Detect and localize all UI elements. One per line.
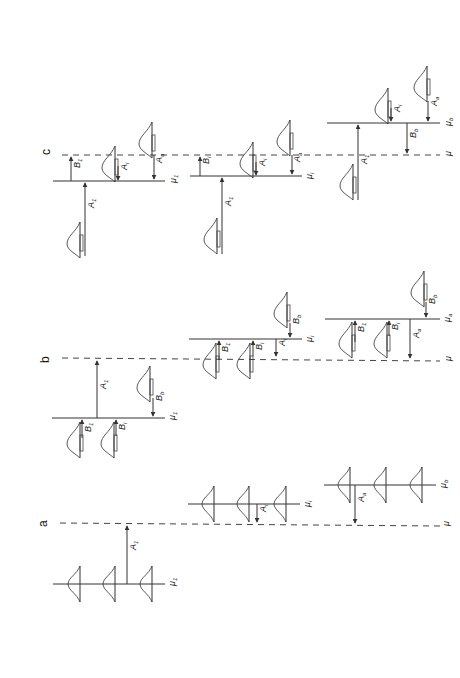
label-A1: A1	[359, 155, 370, 165]
distribution-curve	[375, 88, 391, 124]
label-Aa: Aa	[356, 492, 367, 503]
panel-c: c μ μ1 A1 B1 Ai Aa μi A1 Bi	[39, 66, 454, 258]
label-Aa: Aa	[292, 152, 303, 163]
group-c-1: μ1 A1 B1 Ai Aa	[53, 122, 179, 258]
group-a-i: μi Ai	[188, 486, 313, 522]
group-c-b: μb A1 Bb Ai Aa	[327, 66, 454, 200]
label-A1: A1	[86, 199, 97, 209]
label-Bi: Bi	[201, 156, 212, 164]
distribution-curve	[240, 142, 256, 178]
label-Bb: Bb	[408, 128, 419, 138]
group-b-i: μi B1 Bi Ai Bb	[189, 292, 315, 379]
distribution-curve	[102, 146, 118, 182]
label-B1: B1	[83, 423, 94, 432]
mu-dashed-line	[62, 358, 440, 361]
mu-1-label: μ1	[167, 578, 178, 587]
panel-a: a μ μ1 A1 μi Ai μb	[36, 467, 451, 602]
group-a-1: μ1 A1	[53, 526, 178, 602]
distribution-curve	[340, 164, 356, 200]
distribution-curve	[67, 222, 83, 258]
label-A1: A1	[128, 541, 139, 551]
group-b-b: μa B1 Bi Aa Bb	[325, 271, 453, 358]
panel-b: b μ μ1 A1 Bb B1 Bi μi B1	[38, 271, 453, 458]
distribution-curve	[67, 422, 83, 458]
distribution-curve	[374, 322, 390, 358]
mu-b-label: μb	[443, 117, 454, 127]
mu-i-label: μi	[304, 335, 315, 343]
distribution-curve	[101, 422, 117, 458]
mu-1-label: μ1	[168, 175, 179, 184]
label-Ai: Ai	[257, 158, 268, 167]
label-Ai: Ai	[258, 504, 269, 513]
distribution-curve	[204, 218, 220, 254]
diagram-canvas: c μ μ1 A1 B1 Ai Aa μi A1 Bi	[0, 0, 460, 678]
distribution-curve	[339, 322, 355, 358]
mu-i-label: μi	[304, 172, 315, 180]
distribution-curve	[411, 271, 427, 307]
label-Bi: Bi	[254, 342, 265, 350]
distribution-curve	[414, 66, 430, 102]
panel-label-a: a	[36, 520, 50, 527]
label-B1: B1	[72, 159, 83, 168]
distribution-curve	[274, 292, 290, 328]
group-a-b: μb Aa	[324, 467, 449, 523]
label-Ai: Ai	[392, 104, 403, 113]
label-A1: A1	[98, 380, 109, 390]
label-Aa: Aa	[429, 96, 440, 107]
distribution-curve	[237, 343, 253, 379]
label-B1: B1	[220, 343, 231, 352]
label-B1: B1	[356, 323, 367, 332]
group-b-1: μ1 A1 Bb B1 Bi	[52, 361, 178, 458]
label-Bi: Bi	[117, 422, 128, 430]
panel-label-c: c	[39, 149, 53, 155]
distribution-curve	[139, 122, 155, 158]
label-A1: A1	[223, 197, 234, 207]
label-Aa: Aa	[411, 328, 422, 339]
group-c-i: μi A1 Bi Ai Aa	[190, 120, 315, 254]
panel-label-b: b	[38, 356, 52, 363]
label-Bb: Bb	[427, 294, 438, 304]
label-Bb: Bb	[291, 314, 302, 324]
mu-i-label: μi	[302, 500, 313, 508]
distribution-curve	[203, 343, 219, 379]
mu-b-label: μb	[438, 479, 449, 489]
distribution-curve	[137, 366, 153, 402]
label-Ai: Ai	[119, 162, 130, 171]
mu-1-label: μ1	[167, 412, 178, 421]
mu-label: μ	[443, 151, 453, 157]
mu-a-label: μa	[442, 313, 453, 323]
mu-label: μ	[443, 356, 453, 362]
mu-dashed-line	[60, 523, 440, 526]
distribution-curve	[277, 120, 293, 156]
mu-label: μ	[441, 521, 451, 527]
label-Bb: Bb	[154, 391, 165, 401]
label-Bi: Bi	[390, 322, 401, 330]
